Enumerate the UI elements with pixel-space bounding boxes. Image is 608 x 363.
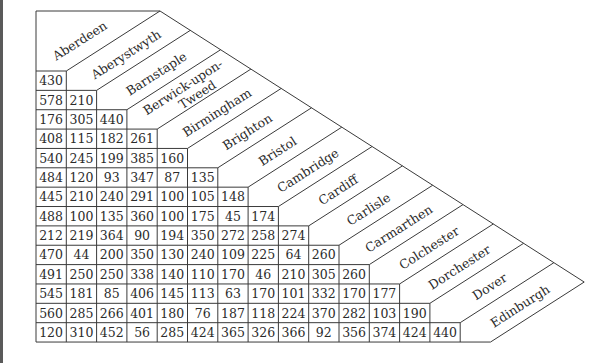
distance-cell: 408 <box>39 131 63 146</box>
distance-cell: 401 <box>130 306 154 321</box>
distance-cell: 210 <box>282 267 306 282</box>
distance-cell: 406 <box>130 286 154 301</box>
distance-cell: 85 <box>104 286 120 301</box>
town-name: Brighton <box>220 110 275 153</box>
distance-cell: 250 <box>70 267 94 282</box>
distance-cell: 250 <box>100 267 124 282</box>
distance-cell: 305 <box>312 267 336 282</box>
distance-cell: 240 <box>191 247 215 262</box>
distance-cell: 366 <box>282 325 306 340</box>
distance-cell: 224 <box>282 306 306 321</box>
distance-cell: 430 <box>39 73 63 88</box>
distance-cell: 560 <box>39 306 63 321</box>
distance-cell: 240 <box>100 189 124 204</box>
distance-cell: 212 <box>39 228 63 243</box>
town-name: Carlisle <box>344 190 393 229</box>
distance-cell: 120 <box>70 170 94 185</box>
distance-cell: 135 <box>100 209 124 224</box>
distance-cell: 332 <box>312 286 336 301</box>
town-label: Carlisle <box>344 190 393 229</box>
distance-cell: 118 <box>251 306 275 321</box>
distance-cell: 440 <box>433 325 457 340</box>
distance-cell: 56 <box>134 325 150 340</box>
town-label: Dover <box>470 270 510 303</box>
distance-cell: 45 <box>225 209 241 224</box>
distance-cell: 258 <box>251 228 275 243</box>
distance-cell: 103 <box>372 306 396 321</box>
distance-cell: 105 <box>191 189 215 204</box>
distance-cell: 350 <box>130 247 154 262</box>
distance-chart: AberdeenAberystwythBarnstapleBerwick-upo… <box>0 0 608 363</box>
distance-cell: 63 <box>225 286 241 301</box>
distance-cell: 113 <box>191 286 215 301</box>
distance-cell: 470 <box>39 247 63 262</box>
distance-cell: 110 <box>191 267 215 282</box>
distance-cell: 261 <box>130 131 154 146</box>
distance-cell: 87 <box>164 170 180 185</box>
town-name: Aberdeen <box>49 18 110 64</box>
distance-cell: 260 <box>342 267 366 282</box>
distance-cell: 219 <box>70 228 94 243</box>
distance-cell: 100 <box>160 189 184 204</box>
distance-cell: 175 <box>191 209 215 224</box>
distance-cell: 272 <box>221 228 245 243</box>
distance-cell: 177 <box>372 286 396 301</box>
distance-cell: 245 <box>70 151 94 166</box>
distance-cell: 488 <box>39 209 63 224</box>
distance-cell: 46 <box>255 267 271 282</box>
distance-cell: 120 <box>39 325 63 340</box>
distance-cell: 338 <box>130 267 154 282</box>
town-label: Cardiff <box>316 171 362 208</box>
distance-cell: 100 <box>70 209 94 224</box>
distance-cell: 109 <box>221 247 245 262</box>
distance-cell: 310 <box>70 325 94 340</box>
distance-cell: 370 <box>312 306 336 321</box>
distance-cell: 484 <box>39 170 63 185</box>
distance-cell: 64 <box>286 247 302 262</box>
distance-cell: 170 <box>342 286 366 301</box>
distance-cell: 364 <box>100 228 124 243</box>
distance-cell: 194 <box>160 228 184 243</box>
distance-cell: 210 <box>70 93 94 108</box>
distance-cell: 305 <box>70 112 94 127</box>
distance-cell: 180 <box>160 306 184 321</box>
distance-cell: 93 <box>104 170 120 185</box>
distance-cell: 385 <box>130 151 154 166</box>
distance-cell: 540 <box>39 151 63 166</box>
distance-cell: 76 <box>195 306 211 321</box>
distance-cell: 181 <box>70 286 94 301</box>
town-label: Bristol <box>256 133 300 168</box>
town-name: Bristol <box>256 133 300 168</box>
distance-cell: 491 <box>39 267 63 282</box>
distance-cell: 285 <box>160 325 184 340</box>
distance-cell: 170 <box>221 267 245 282</box>
distance-cell: 176 <box>39 112 63 127</box>
distance-cell: 452 <box>100 325 124 340</box>
distance-cell: 374 <box>372 325 396 340</box>
town-label: Aberdeen <box>49 18 110 64</box>
distance-cell: 260 <box>312 247 336 262</box>
town-name: Cardiff <box>316 171 362 208</box>
distance-cell: 350 <box>191 228 215 243</box>
distance-cell: 282 <box>342 306 366 321</box>
distance-cell: 210 <box>70 189 94 204</box>
distance-cell: 44 <box>74 247 90 262</box>
distance-cell: 360 <box>130 209 154 224</box>
distance-cell: 545 <box>39 286 63 301</box>
distance-cell: 326 <box>251 325 275 340</box>
distance-cell: 285 <box>70 306 94 321</box>
distance-cell: 190 <box>403 306 427 321</box>
distance-cell: 187 <box>221 306 245 321</box>
distance-cell: 182 <box>100 131 124 146</box>
distance-cell: 347 <box>130 170 154 185</box>
distance-cell: 424 <box>191 325 215 340</box>
distance-cell: 160 <box>160 151 184 166</box>
distance-cell: 445 <box>39 189 63 204</box>
distance-cell: 424 <box>403 325 427 340</box>
distance-cell: 578 <box>39 93 63 108</box>
town-label: Brighton <box>220 110 275 153</box>
distance-cell: 90 <box>134 228 150 243</box>
distance-cell: 101 <box>282 286 306 301</box>
distance-cell: 130 <box>160 247 184 262</box>
distance-cell: 145 <box>160 286 184 301</box>
